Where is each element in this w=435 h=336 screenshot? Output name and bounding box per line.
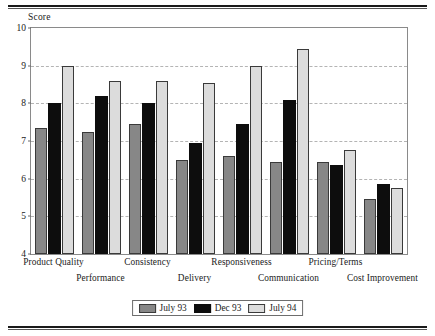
bar <box>283 100 296 254</box>
x-axis-labels: Product QualityPerformanceConsistencyDel… <box>30 257 408 297</box>
bar <box>82 132 95 254</box>
top-rule <box>8 5 427 9</box>
bar-group <box>360 28 407 254</box>
y-tick-label: 8 <box>21 98 26 108</box>
bar-group <box>219 28 266 254</box>
y-tick-label: 10 <box>17 23 27 33</box>
bar <box>156 81 169 254</box>
x-axis-label: Cost Improvement <box>347 273 418 283</box>
x-axis-label: Responsiveness <box>211 257 271 267</box>
x-axis-label: Product Quality <box>23 257 84 267</box>
gridline <box>31 254 407 255</box>
x-axis-label: Consistency <box>124 257 171 267</box>
legend-label: Dec 93 <box>215 303 242 313</box>
x-axis-label: Communication <box>258 273 319 283</box>
bar <box>95 96 108 254</box>
bar <box>377 184 390 254</box>
legend-label: July 94 <box>269 303 296 313</box>
bar-group <box>31 28 78 254</box>
plot-area: 45678910 <box>30 27 408 255</box>
bar <box>142 103 155 254</box>
legend-item[interactable]: July 93 <box>139 303 187 313</box>
bar-group <box>172 28 219 254</box>
bar <box>223 156 236 254</box>
x-axis-label: Pricing/Terms <box>309 257 363 267</box>
legend-item[interactable]: July 94 <box>248 303 296 313</box>
bar-group <box>78 28 125 254</box>
bar-group <box>125 28 172 254</box>
y-tick-label: 9 <box>21 61 26 71</box>
y-axis-title: Score <box>28 12 51 22</box>
bar <box>330 165 343 254</box>
bar-group <box>313 28 360 254</box>
legend-label: July 93 <box>160 303 187 313</box>
legend-swatch <box>194 304 211 313</box>
bar <box>109 81 122 254</box>
bar <box>317 162 330 254</box>
y-tick-label: 6 <box>21 174 26 184</box>
bar <box>176 160 189 254</box>
bar <box>270 162 283 254</box>
bar <box>391 188 404 254</box>
legend-swatch <box>139 304 156 313</box>
bar <box>250 66 263 254</box>
bar <box>236 124 249 254</box>
bar <box>189 143 202 254</box>
bar <box>297 49 310 254</box>
bar <box>344 150 357 254</box>
bar-groups <box>31 28 407 254</box>
chart-page: Score 45678910 Product QualityPerformanc… <box>0 0 435 336</box>
bar <box>35 128 48 254</box>
chart-legend: July 93Dec 93July 94 <box>132 300 304 316</box>
bar <box>129 124 142 254</box>
legend-item[interactable]: Dec 93 <box>194 303 242 313</box>
bar <box>48 103 61 254</box>
bar <box>203 83 216 254</box>
bar <box>62 66 75 254</box>
legend-swatch <box>248 304 265 313</box>
bar <box>364 199 377 254</box>
bottom-rule <box>8 326 427 330</box>
x-axis-label: Performance <box>76 273 125 283</box>
x-axis-label: Delivery <box>178 273 211 283</box>
y-tick-label: 7 <box>21 136 26 146</box>
bar-group <box>266 28 313 254</box>
y-tick-label: 5 <box>21 211 26 221</box>
